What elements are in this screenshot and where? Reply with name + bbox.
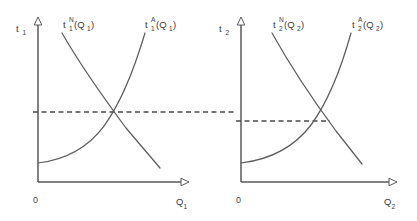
nash-tax-curve-1-label: t 1 N (Q 1 )	[63, 16, 94, 32]
panel-2-x-axis-label-subscript: 2	[392, 203, 396, 210]
autarky-2-label-argument: (Q	[363, 19, 374, 30]
panel-2-y-axis-label: t 2	[219, 23, 230, 36]
autarky-tax-curve-2-label: t 2 A (Q 2 )	[352, 16, 383, 32]
autarky-1-label-base: t	[145, 19, 148, 30]
two-panel-tax-schedule-figure: t 1 Q 1 0 t 1 N (Q 1 ) t 1 A (Q 1 )	[0, 0, 417, 221]
nash-1-label-argument: (Q	[74, 19, 85, 30]
nash-1-label-argument-close: )	[91, 19, 94, 30]
panel-1-x-axis-label-base: Q	[176, 196, 183, 207]
nash-2-label-subscript: 2	[279, 25, 283, 32]
panel-2-origin-label: 0	[236, 195, 241, 205]
nash-2-label-argument: (Q	[284, 19, 295, 30]
panel-1-x-axis-label-subscript: 1	[184, 203, 188, 210]
panel-2: t 2 Q 2 0 t 2 N (Q 2 ) t 2 A (Q 2 )	[219, 16, 397, 210]
panel-1-y-axis-label-base: t	[16, 23, 19, 34]
panel-1-y-axis-label-subscript: 1	[23, 29, 27, 36]
panel-1: t 1 Q 1 0 t 1 N (Q 1 ) t 1 A (Q 1 )	[16, 16, 237, 210]
autarky-tax-curve-1-label: t 1 A (Q 1 )	[145, 16, 176, 32]
autarky-tax-curve-2	[241, 33, 351, 163]
panel-1-x-axis-arrowhead	[181, 178, 189, 186]
autarky-2-label-subscript: 2	[358, 25, 362, 32]
panel-2-x-axis-label-base: Q	[384, 196, 391, 207]
nash-tax-curve-1	[62, 33, 160, 168]
panel-1-origin-label: 0	[33, 195, 38, 205]
panel-2-x-axis-arrowhead	[389, 178, 397, 186]
nash-tax-curve-2-label: t 2 N (Q 2 )	[273, 16, 304, 32]
nash-2-label-base: t	[273, 19, 276, 30]
nash-1-label-base: t	[63, 19, 66, 30]
panel-2-y-axis-label-subscript: 2	[226, 29, 230, 36]
panel-2-y-axis-label-base: t	[219, 23, 222, 34]
autarky-1-label-subscript: 1	[151, 25, 155, 32]
autarky-2-label-base: t	[352, 19, 355, 30]
nash-1-label-subscript: 1	[69, 25, 73, 32]
panel-1-x-axis-label: Q 1	[176, 196, 188, 210]
nash-tax-curve-2	[272, 33, 362, 164]
autarky-1-label-argument: (Q	[156, 19, 167, 30]
panel-2-y-axis-arrowhead	[237, 17, 245, 25]
autarky-2-label-argument-close: )	[380, 19, 383, 30]
autarky-1-label-argument-close: )	[173, 19, 176, 30]
panel-1-y-axis-arrowhead	[34, 17, 42, 25]
panel-2-x-axis-label: Q 2	[384, 196, 396, 210]
panel-1-y-axis-label: t 1	[16, 23, 27, 36]
nash-2-label-argument-close: )	[301, 19, 304, 30]
autarky-tax-curve-1	[38, 33, 145, 163]
